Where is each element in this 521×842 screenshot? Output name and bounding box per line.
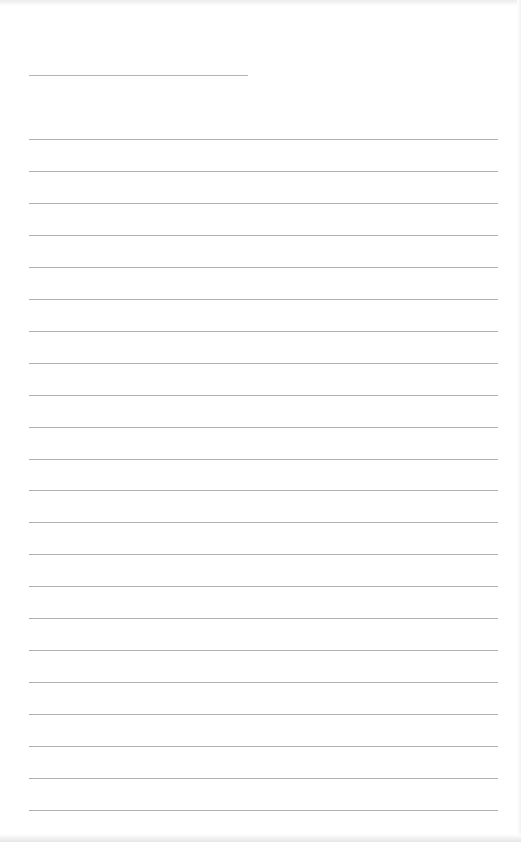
page-top-edge (0, 0, 521, 6)
ruled-line (29, 267, 498, 268)
ruled-line (29, 586, 498, 587)
page-right-edge (517, 0, 521, 842)
ruled-line (29, 650, 498, 651)
ruled-line (29, 522, 498, 523)
ruled-line (29, 299, 498, 300)
ruled-line (29, 203, 498, 204)
ruled-line (29, 618, 498, 619)
ruled-line (29, 331, 498, 332)
ruled-line (29, 682, 498, 683)
ruled-line (29, 778, 498, 779)
ruled-line (29, 746, 498, 747)
ruled-line (29, 459, 498, 460)
ruled-line (29, 235, 498, 236)
ruled-line (29, 427, 498, 428)
page-bottom-edge (0, 834, 521, 842)
ruled-line (29, 554, 498, 555)
ruled-line (29, 810, 498, 811)
ruled-line (29, 363, 498, 364)
header-name-line (29, 75, 248, 76)
ruled-line (29, 171, 498, 172)
ruled-line (29, 714, 498, 715)
ruled-line (29, 490, 498, 491)
ruled-line (29, 139, 498, 140)
ruled-line (29, 395, 498, 396)
